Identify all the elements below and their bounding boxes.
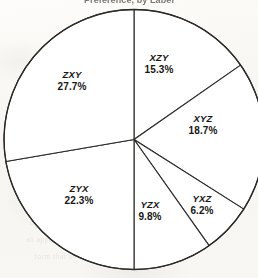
chart-page: to the ringworm of the 1112 concert has … bbox=[0, 0, 258, 278]
slice-category: XZY bbox=[129, 52, 189, 64]
slice-label-xyz: XYZ 18.7% bbox=[173, 113, 233, 137]
slice-label-yxz: YXZ 6.2% bbox=[176, 193, 228, 217]
slice-percent: 6.2% bbox=[176, 205, 228, 217]
slice-label-yzx: YZX 9.8% bbox=[124, 199, 176, 223]
slice-percent: 18.7% bbox=[173, 125, 233, 137]
slice-category: ZXY bbox=[42, 69, 102, 81]
slice-category: XYZ bbox=[173, 113, 233, 125]
slice-category: YXZ bbox=[176, 193, 228, 205]
slice-category: YZX bbox=[124, 199, 176, 211]
slice-percent: 27.7% bbox=[42, 81, 102, 93]
pie-chart bbox=[0, 0, 258, 278]
slice-percent: 9.8% bbox=[124, 211, 176, 223]
slice-label-zyx: ZYX 22.3% bbox=[49, 183, 109, 207]
slice-category: ZYX bbox=[49, 183, 109, 195]
slice-percent: 15.3% bbox=[129, 64, 189, 76]
slice-percent: 22.3% bbox=[49, 195, 109, 207]
slice-label-zxy: ZXY 27.7% bbox=[42, 69, 102, 93]
pie-slices bbox=[4, 10, 258, 270]
slice-label-xzy: XZY 15.3% bbox=[129, 52, 189, 76]
